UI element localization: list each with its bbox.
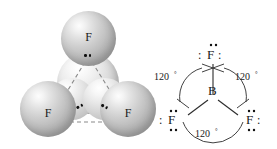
colon-right-f-top: :	[218, 48, 221, 62]
colon-right-f-right: :	[257, 113, 260, 127]
lone-pair-dot-f-right-c	[248, 129, 250, 131]
angle-label-left: 120	[154, 71, 169, 82]
lone-pair-dot-f-right-b	[253, 110, 255, 112]
atom-sphere-fluorine-right: F	[100, 81, 156, 137]
lewis-diagram: : F : B : F F :	[150, 0, 277, 149]
bond-b-to-f-left	[188, 100, 208, 115]
atom-label-fluorine-left: F	[20, 106, 76, 121]
atom-sphere-fluorine-top: F	[61, 11, 116, 66]
lone-pair-dot-f-top-b	[215, 44, 217, 46]
lewis-structure: : F : B : F F :	[150, 0, 277, 149]
lone-pair-dots-top	[84, 54, 91, 57]
atom-sphere-fluorine-left: F	[20, 81, 76, 137]
space-filling-model: B F F F	[0, 0, 150, 149]
bond-b-to-f-right	[218, 100, 238, 115]
colon-left-f-top: :	[198, 48, 201, 62]
atom-label-fluorine-right: F	[100, 106, 156, 121]
angle-degree-right: °	[255, 70, 258, 77]
angle-degree-left: °	[174, 70, 177, 77]
lone-pair-dot-f-right-d	[253, 129, 255, 131]
colon-left-f-left: :	[159, 113, 162, 127]
lone-pair-dot-f-top-a	[210, 44, 212, 46]
atom-label-f-top: F	[207, 47, 214, 62]
arc-tick-right	[237, 99, 249, 108]
lone-pair-dot-f-left-c	[170, 129, 172, 131]
atom-label-f-left: F	[168, 112, 175, 127]
lone-pair-dot-f-right-a	[248, 110, 250, 112]
lone-pair-dot-f-left-b	[175, 110, 177, 112]
arc-tick-left	[177, 99, 189, 108]
atom-label-boron: B	[208, 83, 217, 98]
angle-arc-left	[180, 68, 202, 102]
angle-label-right: 120	[235, 71, 250, 82]
angle-label-bottom: 120	[195, 128, 210, 139]
angle-arc-bottom	[183, 122, 243, 143]
bf3-figure: B F F F : F : B	[0, 0, 277, 149]
angle-degree-bottom: °	[215, 127, 218, 134]
atom-label-f-right: F	[246, 112, 253, 127]
atom-label-fluorine-top: F	[61, 30, 116, 45]
lone-pair-dot-f-left-a	[170, 110, 172, 112]
lone-pair-dot-f-left-d	[175, 129, 177, 131]
